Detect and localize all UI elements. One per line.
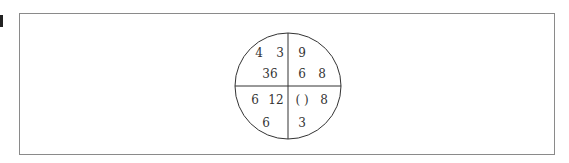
br-number-c: 3: [298, 116, 306, 130]
tl-number-a: 4: [255, 46, 263, 60]
bl-number-c: 6: [262, 116, 270, 130]
tr-number-b: 6: [298, 67, 306, 81]
tl-number-b: 3: [276, 46, 284, 60]
bl-number-b: 12: [268, 93, 283, 107]
tr-number-c: 8: [318, 67, 326, 81]
br-unknown-blank: ( ): [295, 93, 308, 107]
br-number-b: 8: [320, 93, 328, 107]
bl-number-a: 6: [251, 93, 259, 107]
tr-number-a: 9: [298, 46, 306, 60]
tl-number-c: 36: [262, 67, 277, 81]
number-circle-figure: 4 3 36 9 6 8 6 12 6 ( ) 8 3: [0, 0, 569, 163]
